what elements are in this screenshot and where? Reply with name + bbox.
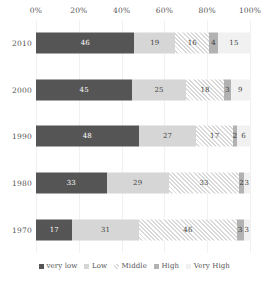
plot-area: 2010461916415200045251839199048271726198… <box>0 20 269 253</box>
legend-label: Middle <box>122 262 147 270</box>
chart-row: 200045251839 <box>0 67 269 114</box>
bar-segment[interactable]: 33 <box>36 173 107 194</box>
legend-item[interactable]: very low <box>39 262 77 270</box>
bar-segment[interactable]: 48 <box>36 126 139 147</box>
legend-label: Low <box>92 262 107 270</box>
bar-segment-value: 33 <box>67 180 76 187</box>
chart-row: 198033293323 <box>0 160 269 207</box>
legend-label: Very High <box>194 262 230 270</box>
bar-segment-value: 3 <box>244 226 249 233</box>
bar-segment[interactable]: 6 <box>237 126 250 147</box>
x-tick-label: 20% <box>70 6 87 15</box>
bar-segment[interactable]: 31 <box>72 219 138 240</box>
bar-segment-value: 4 <box>211 40 216 47</box>
bar-segment[interactable]: 15 <box>218 33 250 54</box>
stacked-bar[interactable]: 45251839 <box>36 79 250 100</box>
bar-segment-value: 6 <box>241 133 246 140</box>
bar-segment[interactable]: 18 <box>186 79 225 100</box>
bar-segment-value: 2 <box>233 133 237 140</box>
bar-segment-value: 29 <box>133 180 142 187</box>
bar-segment-value: 46 <box>183 226 192 233</box>
bar-segment[interactable]: 25 <box>132 79 186 100</box>
stacked-bar-chart: 0%20%40%60%80%100% 201046191641520004525… <box>0 0 269 281</box>
y-axis-category-label: 1990 <box>4 132 32 141</box>
bar-segment-value: 46 <box>81 40 90 47</box>
y-axis-category-label: 1980 <box>4 179 32 188</box>
y-axis-category-label: 1970 <box>4 225 32 234</box>
legend-swatch-icon <box>84 264 89 269</box>
bar-segment-value: 27 <box>163 133 172 140</box>
chart-row: 2010461916415 <box>0 20 269 67</box>
bar-segment-value: 17 <box>210 133 219 140</box>
stacked-bar[interactable]: 461916415 <box>36 33 250 54</box>
bar-segment-value: 48 <box>83 133 92 140</box>
bar-segment[interactable]: 3 <box>244 173 250 194</box>
legend-swatch-icon <box>186 264 191 269</box>
bar-segment[interactable]: 9 <box>231 79 250 100</box>
bar-segment[interactable]: 16 <box>175 33 209 54</box>
bar-segment[interactable]: 19 <box>134 33 175 54</box>
chart-row: 197017314633 <box>0 206 269 253</box>
bar-segment[interactable]: 27 <box>139 126 197 147</box>
y-axis-category-label: 2010 <box>4 39 32 48</box>
bar-segment[interactable]: 46 <box>36 33 134 54</box>
bar-segment[interactable]: 17 <box>196 126 232 147</box>
legend-item[interactable]: Low <box>84 262 107 270</box>
bar-segment-value: 3 <box>244 180 249 187</box>
bar-segment-value: 16 <box>188 40 197 47</box>
x-tick-label: 100% <box>239 6 261 15</box>
stacked-bar[interactable]: 33293323 <box>36 173 250 194</box>
stacked-bar[interactable]: 48271726 <box>36 126 250 147</box>
x-tick-label: 60% <box>156 6 173 15</box>
bar-segment[interactable]: 4 <box>209 33 218 54</box>
bar-segment-value: 45 <box>80 86 89 93</box>
x-tick-label: 80% <box>199 6 216 15</box>
bar-segment-value: 9 <box>238 86 243 93</box>
legend-item[interactable]: Very High <box>186 262 230 270</box>
bar-segment-value: 33 <box>199 180 208 187</box>
y-axis-category-label: 2000 <box>4 85 32 94</box>
legend-item[interactable]: High <box>154 262 179 270</box>
bar-segment[interactable]: 29 <box>107 173 169 194</box>
chart-legend: very lowLowMiddleHighVery High <box>0 259 269 273</box>
legend-swatch-icon <box>114 264 119 269</box>
bar-segment-value: 3 <box>225 86 230 93</box>
bar-segment-value: 31 <box>101 226 110 233</box>
bar-segment[interactable]: 33 <box>169 173 240 194</box>
bar-segment-value: 18 <box>201 86 210 93</box>
bar-segment-value: 19 <box>150 40 159 47</box>
chart-row: 199048271726 <box>0 113 269 160</box>
bar-segment[interactable]: 3 <box>244 219 250 240</box>
bar-segment[interactable]: 17 <box>36 219 72 240</box>
x-axis: 0%20%40%60%80%100% <box>0 6 269 20</box>
bar-segment[interactable]: 45 <box>36 79 132 100</box>
bar-segment-value: 17 <box>50 226 59 233</box>
legend-swatch-icon <box>39 264 44 269</box>
bar-segment-value: 15 <box>229 40 238 47</box>
x-tick-label: 0% <box>30 6 42 15</box>
legend-label: High <box>161 262 179 270</box>
bar-segment-value: 25 <box>154 86 163 93</box>
legend-item[interactable]: Middle <box>114 262 147 270</box>
legend-swatch-icon <box>154 264 159 269</box>
x-tick-label: 40% <box>113 6 130 15</box>
bar-segment-value: 2 <box>239 180 243 187</box>
bar-segment[interactable]: 46 <box>139 219 237 240</box>
legend-label: very low <box>47 262 78 270</box>
bar-segment-value: 3 <box>238 226 243 233</box>
stacked-bar[interactable]: 17314633 <box>36 219 250 240</box>
